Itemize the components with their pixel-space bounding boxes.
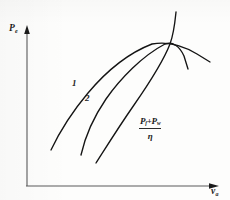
figure-container: — — — — — — — —— ——— Pe va 1 2 Pf+Pw η [0,0,230,200]
resistance-power-curve-path [96,12,176,163]
y-axis-label-main: P [9,23,15,33]
curve-1-label: 1 [72,79,77,88]
curve-2-path [81,43,188,155]
y-axis-label: Pe [9,24,18,34]
formula-term-pw-subscript: w [157,120,160,126]
x-axis-label-main: v [211,187,215,197]
formula-denominator-eta: η [139,131,161,141]
plot-canvas [0,0,230,200]
curve-2-label: 2 [85,94,90,103]
x-axis-label: va [211,187,219,197]
x-axis-label-subscript: a [216,191,219,197]
curve-1-path [51,43,210,150]
formula-numerator: Pf+Pw [139,116,161,127]
resistance-power-formula: Pf+Pw η [139,116,161,141]
y-axis-label-subscript: e [15,28,18,34]
formula-fraction-bar [139,128,161,129]
y-axis-arrowhead [24,25,30,34]
